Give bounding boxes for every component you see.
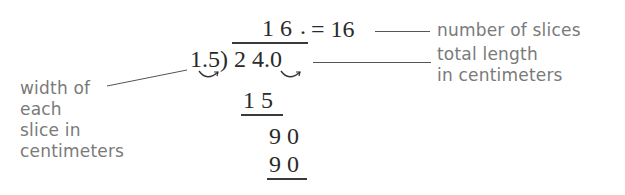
label-each: each [20, 101, 62, 118]
step-underline-2 [267, 178, 307, 180]
label-slice-in: slice in [20, 122, 81, 139]
decimal-shift-arrows [0, 0, 625, 195]
step-subtract-15: 1 5 [243, 88, 273, 112]
step-underline-1 [241, 114, 283, 116]
label-width-of: width of [20, 80, 90, 97]
label-centimeters: centimeters [20, 143, 124, 160]
step-subtract-90: 9 0 [269, 152, 299, 176]
step-remainder-90: 9 0 [269, 124, 299, 148]
